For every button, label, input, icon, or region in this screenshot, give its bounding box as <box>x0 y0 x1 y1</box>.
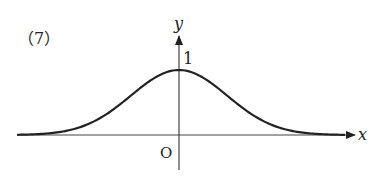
bell-curve <box>17 70 345 135</box>
problem-label: （7） <box>18 29 60 48</box>
graph: （7） x y 1 O <box>0 0 382 179</box>
x-axis-label: x <box>358 125 367 144</box>
peak-value-label: 1 <box>183 49 193 68</box>
origin-label: O <box>160 144 172 162</box>
y-axis-label: y <box>173 14 184 33</box>
